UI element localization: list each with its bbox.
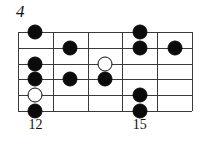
note-marker-filled-fret1-string2	[63, 40, 78, 55]
fretboard-diagram: 4 1215	[0, 0, 208, 150]
string-line-2	[18, 48, 192, 49]
note-marker-filled-fret0-string4	[28, 72, 43, 87]
figure-number-label: 4	[16, 2, 25, 22]
fret-line-1	[53, 32, 54, 111]
note-marker-filled-fret3-string1	[132, 25, 147, 40]
string-line-1	[18, 32, 192, 33]
fret-number-label-15: 15	[133, 117, 147, 133]
string-line-6	[18, 111, 192, 112]
string-line-5	[18, 95, 192, 96]
note-marker-filled-fret1-string4	[63, 72, 78, 87]
note-marker-filled-fret4-string2	[167, 40, 182, 55]
note-marker-filled-fret3-string5	[132, 88, 147, 103]
note-marker-filled-fret0-string3	[28, 56, 43, 71]
note-marker-filled-fret3-string2	[132, 40, 147, 55]
fret-line-5	[192, 32, 193, 111]
fret-line-2	[88, 32, 89, 111]
fret-line-4	[157, 32, 158, 111]
note-marker-filled-fret2-string4	[98, 72, 113, 87]
note-marker-open-fret2-string3	[98, 56, 113, 71]
fretboard-grid	[18, 32, 192, 111]
fret-line-0	[18, 32, 19, 111]
fret-number-label-12: 12	[28, 117, 42, 133]
note-marker-open-fret0-string5	[28, 88, 43, 103]
note-marker-filled-fret0-string1	[28, 25, 43, 40]
fret-line-3	[122, 32, 123, 111]
